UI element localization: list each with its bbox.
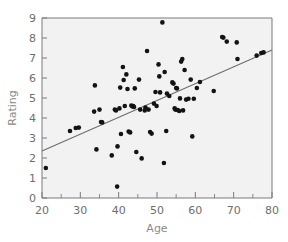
data-point [175, 86, 180, 91]
data-point [186, 97, 191, 102]
data-point [115, 184, 120, 189]
x-tick-label: 20 [35, 204, 49, 217]
data-point [121, 65, 126, 70]
data-point [182, 68, 187, 73]
y-tick-label: 6 [29, 72, 36, 85]
y-tick-label: 4 [29, 112, 36, 125]
data-point [234, 40, 239, 45]
data-point [68, 129, 73, 134]
data-point [160, 20, 165, 25]
data-point [92, 109, 97, 114]
data-point [119, 132, 124, 137]
x-tick-label: 30 [73, 204, 87, 217]
data-point [192, 97, 197, 102]
data-point [188, 77, 193, 82]
data-point [178, 96, 183, 101]
data-point [181, 108, 186, 113]
data-point [138, 107, 143, 112]
data-point [137, 77, 142, 82]
data-point [109, 153, 114, 158]
x-tick-label: 80 [265, 204, 279, 217]
data-point [97, 107, 102, 112]
data-point [153, 90, 158, 95]
data-point [154, 104, 159, 109]
data-point [195, 86, 200, 91]
data-point [93, 83, 98, 88]
x-axis-title: Age [146, 222, 168, 235]
data-point [94, 147, 99, 152]
data-point [145, 49, 150, 54]
data-point [132, 105, 137, 110]
data-point [235, 57, 240, 62]
data-point [157, 74, 162, 79]
data-point [171, 81, 176, 86]
y-tick-label: 2 [29, 152, 36, 165]
data-point [146, 107, 151, 112]
y-tick-label: 8 [29, 32, 36, 45]
data-point [100, 120, 105, 125]
data-point [162, 70, 167, 75]
data-point [261, 50, 266, 55]
plot-canvas: 012345678920304050607080 Age Rating [0, 0, 288, 242]
y-tick-label: 9 [29, 12, 36, 25]
data-point [164, 129, 169, 134]
x-tick-label: 40 [112, 204, 126, 217]
data-point [162, 161, 167, 166]
data-point [124, 72, 129, 77]
data-point [132, 86, 137, 91]
data-point [117, 106, 122, 111]
x-tick-label: 50 [150, 204, 164, 217]
data-point [134, 150, 139, 155]
data-point [44, 166, 49, 171]
y-tick-label: 5 [29, 92, 36, 105]
scatter-plot-figure: 012345678920304050607080 Age Rating [0, 0, 288, 242]
data-point [211, 89, 216, 94]
data-point [167, 94, 172, 99]
data-point [221, 35, 226, 40]
data-point [224, 39, 229, 44]
data-point [254, 53, 259, 58]
data-point [77, 125, 82, 130]
data-point [121, 78, 126, 83]
y-tick-label: 3 [29, 132, 36, 145]
data-point [156, 62, 161, 67]
data-point [115, 144, 120, 149]
y-tick-label: 1 [29, 172, 36, 185]
x-tick-label: 60 [188, 204, 202, 217]
y-tick-label: 7 [29, 52, 36, 65]
y-axis-title: Rating [6, 90, 19, 125]
data-point [190, 134, 195, 139]
data-point [118, 85, 123, 90]
data-point [128, 130, 133, 135]
data-point [123, 104, 128, 109]
data-point [180, 57, 185, 62]
data-point [177, 109, 182, 114]
data-point [149, 131, 154, 136]
data-point [125, 87, 130, 92]
x-tick-label: 70 [227, 204, 241, 217]
data-point [158, 90, 163, 95]
data-point [139, 156, 144, 161]
data-point [198, 80, 203, 85]
